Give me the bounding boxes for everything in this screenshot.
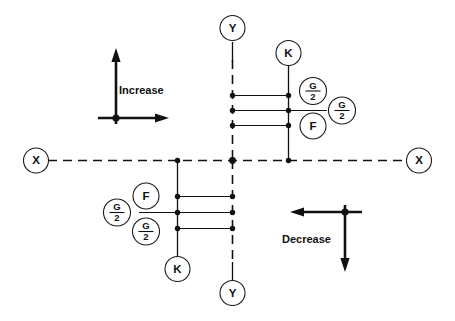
joint-dot <box>286 93 291 98</box>
axis-label-y-bottom[interactable]: Y <box>220 281 245 306</box>
increase-up-arrowhead <box>111 48 120 62</box>
lower-g2-outer-numerator: G <box>113 201 120 212</box>
lower-g2-inner-denominator: 2 <box>143 231 148 242</box>
upper-k-label: K <box>284 47 293 59</box>
x-left-label: X <box>32 154 40 166</box>
lower-g2-outer-denominator: 2 <box>114 212 119 223</box>
joint-dot <box>230 210 235 215</box>
upper-g2-inner-denominator: 2 <box>310 91 315 102</box>
callout-upper-g2-inner[interactable]: G 2 <box>300 78 327 105</box>
joint-dot <box>175 226 180 231</box>
upper-g2-outer-denominator: 2 <box>339 110 344 121</box>
increase-indicator: Increase <box>98 48 169 124</box>
joint-dot <box>230 123 235 128</box>
callout-lower-k[interactable]: K <box>165 257 190 282</box>
joint-dot <box>230 93 235 98</box>
decrease-down-arrowhead <box>340 258 349 272</box>
upper-g2-inner-numerator: G <box>309 80 316 91</box>
axis-label-x-right[interactable]: X <box>407 148 432 173</box>
joint-dot <box>230 194 235 199</box>
joint-dot <box>286 108 291 113</box>
joint-dot <box>175 158 180 163</box>
decrease-indicator: Decrease <box>282 205 362 272</box>
lower-f-label: F <box>142 190 149 202</box>
axis-label-x-left[interactable]: X <box>24 148 49 173</box>
lower-k-label: K <box>173 263 182 275</box>
axis-label-y-top[interactable]: Y <box>220 16 245 41</box>
lower-g2-inner-numerator: G <box>142 220 149 231</box>
decrease-label: Decrease <box>282 233 331 245</box>
callout-upper-g2-outer[interactable]: G 2 <box>329 97 356 124</box>
callout-lower-f[interactable]: F <box>133 183 159 209</box>
origin-dot <box>229 157 236 164</box>
decrease-left-arrowhead <box>290 207 304 216</box>
y-top-label: Y <box>229 22 237 34</box>
joint-dot <box>286 123 291 128</box>
increase-origin-dot <box>112 114 119 121</box>
y-bottom-label: Y <box>229 287 237 299</box>
upper-g2-outer-numerator: G <box>338 99 345 110</box>
joint-dot <box>286 158 291 163</box>
upper-f-label: F <box>309 120 316 132</box>
joint-dot <box>175 194 180 199</box>
callout-lower-g2-outer[interactable]: G 2 <box>104 199 131 226</box>
callout-lower-g2-inner[interactable]: G 2 <box>133 218 160 245</box>
callout-upper-k[interactable]: K <box>276 41 301 66</box>
joint-dot <box>230 108 235 113</box>
diagram-canvas: X X Y Y K G 2 G 2 <box>0 0 455 321</box>
x-right-label: X <box>415 154 423 166</box>
increase-label: Increase <box>119 84 164 96</box>
lower-left-group <box>139 158 235 259</box>
decrease-origin-dot <box>341 208 348 215</box>
diagram-svg: X X Y Y K G 2 G 2 <box>0 0 455 321</box>
joint-dot <box>175 210 180 215</box>
increase-right-arrowhead <box>155 113 169 122</box>
joint-dot <box>230 226 235 231</box>
callout-upper-f[interactable]: F <box>300 113 326 139</box>
